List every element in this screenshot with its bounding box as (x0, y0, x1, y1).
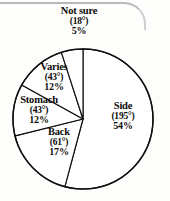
slice-label-stomach: Stomach (43°) 12% (6, 95, 72, 126)
slice-label-side-percent: 54% (95, 121, 151, 131)
slice-label-stomach-percent: 12% (6, 115, 72, 125)
slice-label-back: Back (61°) 17% (32, 127, 86, 158)
slice-label-back-percent: 17% (32, 147, 86, 157)
slice-label-varies-percent: 12% (25, 82, 83, 92)
slice-label-varies: Varies (43°) 12% (25, 62, 83, 93)
slice-label-side: Side (195°) 54% (95, 101, 151, 132)
slice-label-not-sure-percent: 5% (41, 26, 117, 36)
slice-label-not-sure: Not sure (18°) 5% (41, 6, 117, 37)
pie-chart-figure: Not sure (18°) 5% Varies (43°) 12% Stoma… (0, 0, 170, 201)
